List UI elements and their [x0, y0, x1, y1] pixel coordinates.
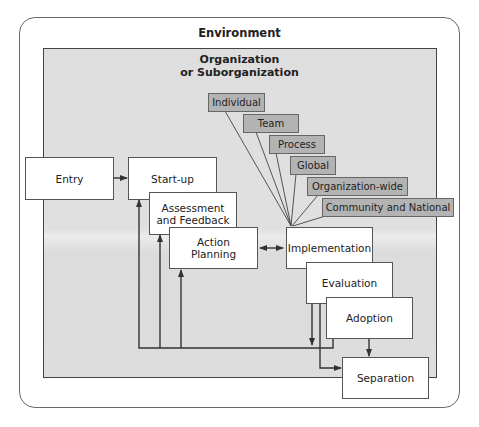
- stage-assessment-line2: and Feedback: [156, 214, 229, 226]
- level-tag-team: Team: [243, 114, 299, 133]
- od-process-diagram: Environment Organization or Suborganizat…: [0, 0, 479, 427]
- level-tag-global: Global: [290, 156, 336, 175]
- level-tag-process: Process: [269, 135, 325, 154]
- level-tag-organization-wide: Organization-wide: [307, 177, 408, 196]
- stage-action-planning: Action Planning: [169, 227, 258, 269]
- stage-assessment-line1: Assessment: [162, 202, 225, 214]
- stage-adoption: Adoption: [326, 297, 413, 339]
- stage-separation: Separation: [342, 357, 429, 399]
- level-tag-community-national: Community and National: [322, 198, 454, 217]
- stage-entry: Entry: [25, 157, 114, 200]
- stage-action-line1: Action: [197, 236, 230, 248]
- stage-action-line2: Planning: [191, 248, 236, 260]
- level-tag-individual: Individual: [208, 93, 265, 112]
